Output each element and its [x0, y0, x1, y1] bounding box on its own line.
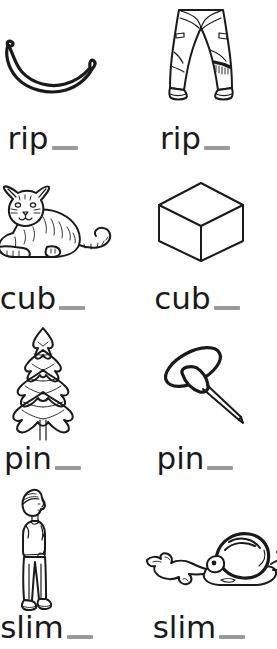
- worksheet-page: rip: [0, 0, 277, 649]
- answer-blank[interactable]: [219, 635, 245, 639]
- word-line: pin: [157, 443, 234, 480]
- answer-blank[interactable]: [67, 635, 93, 639]
- pine-tree-illustration: [0, 322, 111, 445]
- slim-person-illustration: [0, 482, 111, 618]
- answer-blank[interactable]: [55, 466, 81, 470]
- worksheet-item: pin: [137, 320, 277, 480]
- cube-illustration: [131, 160, 271, 283]
- word-line: cub: [154, 283, 239, 320]
- word-line: slim: [153, 612, 246, 649]
- word-line: rip: [160, 123, 230, 160]
- word-text: rip: [7, 123, 48, 154]
- word-text: slim: [0, 612, 64, 643]
- word-line: slim: [0, 612, 93, 649]
- answer-blank[interactable]: [204, 146, 230, 150]
- worksheet-item: rip: [137, 0, 277, 160]
- worksheet-item: cub: [137, 160, 277, 320]
- answer-blank[interactable]: [59, 306, 85, 310]
- answer-blank[interactable]: [207, 466, 233, 470]
- worksheet-item: slim: [137, 480, 277, 649]
- word-text: pin: [4, 443, 52, 474]
- word-line: rip: [7, 123, 77, 160]
- word-text: slim: [153, 612, 217, 643]
- worksheet-item: pin: [0, 320, 137, 480]
- ripped-jeans-illustration: [131, 0, 271, 117]
- answer-blank[interactable]: [214, 306, 240, 310]
- worksheet-grid: rip: [0, 0, 277, 649]
- push-pin-illustration: [133, 322, 273, 445]
- snail-slime-illustration: [145, 488, 277, 620]
- word-line: pin: [4, 443, 81, 480]
- answer-blank[interactable]: [52, 146, 78, 150]
- worksheet-item: slim: [0, 480, 137, 649]
- word-text: rip: [160, 123, 201, 154]
- word-text: cub: [154, 283, 210, 314]
- word-text: cub: [0, 283, 56, 314]
- worksheet-item: cub: [0, 160, 137, 320]
- word-text: pin: [157, 443, 205, 474]
- banana-illustration: [0, 8, 115, 131]
- worksheet-item: rip: [0, 0, 137, 160]
- word-line: cub: [0, 283, 85, 320]
- tiger-cub-illustration: [0, 162, 121, 285]
